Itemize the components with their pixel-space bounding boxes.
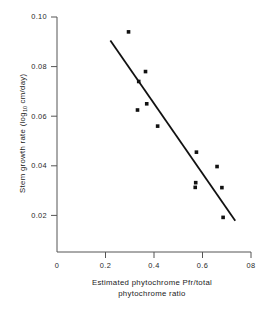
y-axis-title-subscript: 10 bbox=[22, 106, 28, 112]
data-point bbox=[194, 181, 198, 185]
x-axis-title-line-2: phytochrome ratio bbox=[40, 289, 264, 300]
data-point bbox=[145, 102, 149, 106]
data-point bbox=[221, 216, 225, 220]
x-tick-label-0: 0 bbox=[41, 261, 73, 270]
regression-line bbox=[110, 41, 235, 221]
figure-scatter-phytochrome: 0.020.040.060.080.10 00.20.40.608 Stem g… bbox=[0, 0, 269, 310]
x-tick-label-1: 0.2 bbox=[90, 261, 122, 270]
x-axis-ticks bbox=[106, 252, 252, 258]
data-point bbox=[136, 108, 140, 112]
data-point bbox=[193, 186, 197, 190]
x-tick-label-2: 0.4 bbox=[138, 261, 170, 270]
data-points bbox=[127, 30, 225, 219]
trend-line bbox=[110, 41, 235, 221]
plot-area: 0.020.040.060.080.10 00.20.40.608 Stem g… bbox=[0, 0, 269, 310]
data-point bbox=[220, 186, 224, 190]
x-tick-label-4: 08 bbox=[235, 261, 267, 270]
x-tick-label-3: 0.6 bbox=[187, 261, 219, 270]
y-axis-ticks bbox=[51, 17, 57, 215]
data-point bbox=[156, 124, 160, 128]
data-point bbox=[144, 70, 148, 74]
data-point bbox=[137, 80, 141, 84]
data-point bbox=[195, 150, 199, 154]
x-axis-title: Estimated phytochrome Pfr/total phytochr… bbox=[40, 278, 264, 299]
x-axis-title-line-1: Estimated phytochrome Pfr/total bbox=[92, 278, 212, 287]
y-axis-title: Stem growth rate (log10 cm/day) bbox=[18, 48, 29, 218]
y-tick-label-4: 0.10 bbox=[5, 12, 47, 21]
data-point bbox=[127, 30, 131, 34]
data-point bbox=[215, 165, 219, 169]
